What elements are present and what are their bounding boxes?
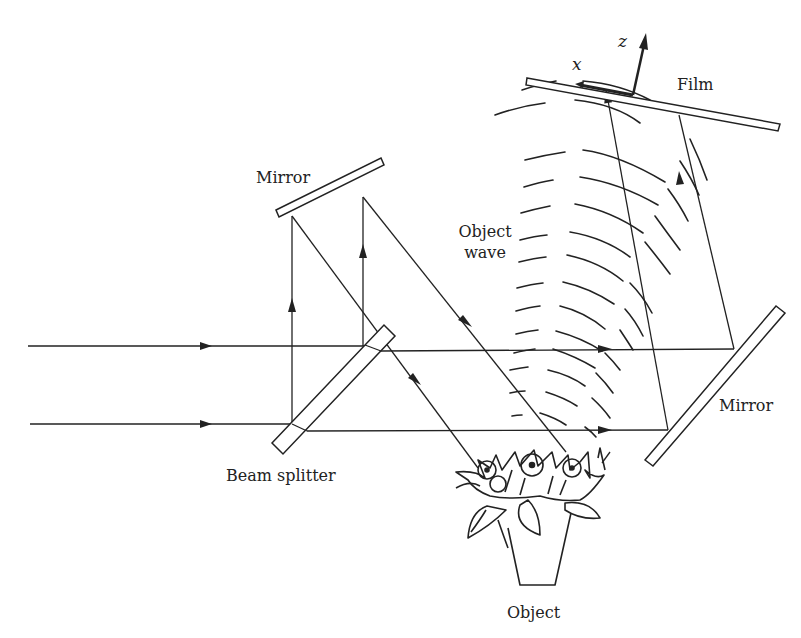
right-mirror-label: Mirror	[719, 398, 773, 414]
mirror-to-film-beam-right	[676, 115, 734, 349]
top-mirror	[276, 158, 384, 217]
vertical-beam-right	[359, 197, 367, 346]
axis-x-label: x	[572, 56, 582, 73]
holography-diagram	[0, 0, 801, 638]
object-wave-fronts	[495, 81, 707, 437]
transmitted-beam-upper	[381, 345, 734, 353]
axis-z-icon	[633, 33, 648, 95]
object-arrow-mark	[602, 452, 610, 463]
incoming-beam-lower	[30, 420, 292, 428]
incoming-beam-upper	[28, 342, 364, 350]
object-label: Object	[507, 605, 560, 621]
top-mirror-label: Mirror	[256, 170, 310, 186]
object-flower-vase-icon	[456, 448, 605, 585]
beam-splitter-label: Beam splitter	[226, 468, 336, 484]
object-wave-label-line2: wave	[460, 245, 510, 261]
right-mirror	[645, 306, 785, 466]
transmitted-beam-lower	[307, 426, 668, 434]
object-wave-label-line1: Object	[455, 224, 515, 240]
film-plate	[526, 78, 780, 131]
film-label: Film	[677, 77, 714, 93]
vertical-beam-left	[288, 216, 296, 424]
beam-splitter	[272, 325, 395, 454]
axis-z-label: z	[618, 33, 627, 50]
